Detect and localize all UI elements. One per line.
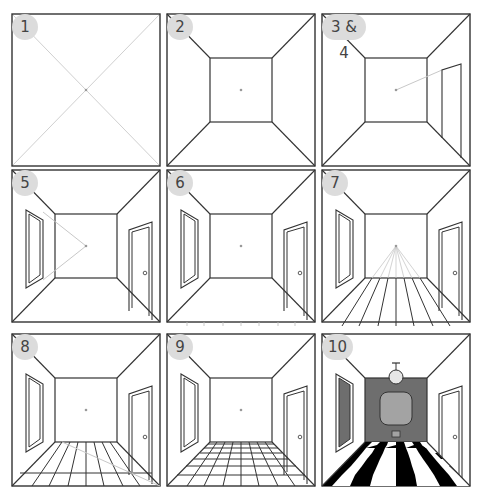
window-and-door-drawing <box>12 170 160 322</box>
step-6-panel: 6 <box>167 170 315 322</box>
step-number-badge: 9 <box>167 334 193 360</box>
floor-marks-drawing <box>167 170 315 322</box>
step-10-panel: 10 <box>322 334 470 486</box>
step-8-panel: 8 <box>12 334 160 486</box>
step-3-4-panel: 3 & 4 <box>322 14 470 166</box>
step-number-badge: 6 <box>167 170 193 196</box>
step-1-panel: 1 <box>12 14 160 166</box>
step-number-badge: 5 <box>12 170 38 196</box>
floor-tile-grid-drawing <box>167 334 315 486</box>
step-number-badge: 7 <box>322 170 348 196</box>
step-7-panel: 7 <box>322 170 470 322</box>
back-wall-drawing <box>167 14 315 166</box>
step-number-badge: 2 <box>167 14 193 40</box>
floor-diagonal-drawing <box>12 334 160 486</box>
square-with-diagonals-drawing <box>12 14 160 166</box>
step-2-panel: 2 <box>167 14 315 166</box>
floor-perspective-lines-drawing <box>322 170 470 322</box>
step-number-badge: 3 & 4 <box>322 14 366 40</box>
step-5-panel: 5 <box>12 170 160 322</box>
step-number-badge: 10 <box>322 334 353 360</box>
step-9-panel: 9 <box>167 334 315 486</box>
step-number-badge: 1 <box>12 14 38 40</box>
step-number-badge: 8 <box>12 334 38 360</box>
